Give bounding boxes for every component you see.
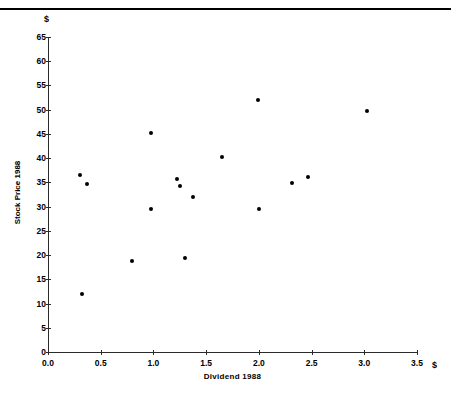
data-point (149, 131, 153, 135)
data-point (191, 195, 195, 199)
data-point (130, 259, 134, 263)
data-point (78, 173, 82, 177)
data-point (175, 177, 179, 181)
data-point (85, 182, 89, 186)
data-point (306, 175, 310, 179)
data-point (365, 109, 369, 113)
data-point (220, 155, 224, 159)
scatter-plot-figure: $ $ 05101520253035404550556065 0.00.51.0… (0, 0, 451, 395)
data-point (149, 207, 153, 211)
data-point (80, 292, 84, 296)
data-point (290, 181, 294, 185)
data-point (256, 98, 260, 102)
plot-area (0, 0, 451, 395)
data-point (178, 184, 182, 188)
data-point (183, 256, 187, 260)
data-point (257, 207, 261, 211)
